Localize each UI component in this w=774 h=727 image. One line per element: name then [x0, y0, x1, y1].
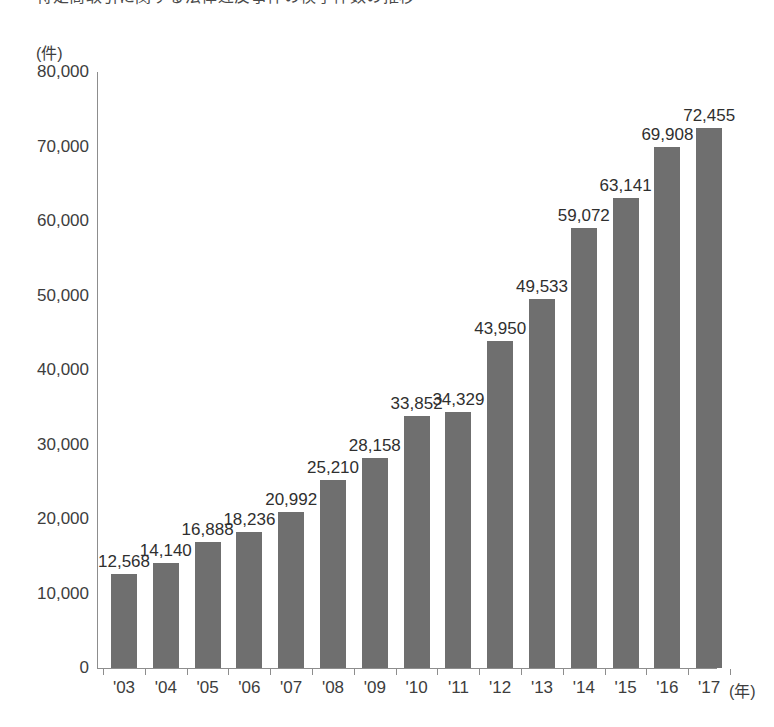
y-axis-unit-label: (件) [36, 40, 63, 64]
x-axis-tick-label: '11 [438, 678, 478, 698]
y-axis-tick-label: 70,000 [5, 137, 89, 157]
x-axis-tick-label: '17 [689, 678, 729, 698]
bar-value-label: 63,141 [586, 176, 666, 196]
x-axis-tick-label: '15 [606, 678, 646, 698]
x-axis-tick [145, 669, 146, 675]
x-axis-tick [479, 669, 480, 675]
x-axis-tick [563, 669, 564, 675]
x-axis-tick-label: '08 [313, 678, 353, 698]
x-axis-tick-label: '06 [229, 678, 269, 698]
x-axis-tick [187, 669, 188, 675]
y-axis-tick-label: 80,000 [5, 62, 89, 82]
x-axis-tick-label: '07 [271, 678, 311, 698]
x-axis-tick-label: '04 [146, 678, 186, 698]
bar-value-label: 28,158 [335, 436, 415, 456]
bar [278, 512, 304, 668]
bar-value-label: 72,455 [669, 106, 749, 126]
bar-value-label: 34,329 [418, 390, 498, 410]
x-axis-tick-label: '12 [480, 678, 520, 698]
y-axis-tick-label: 50,000 [5, 286, 89, 306]
bar-value-label: 14,140 [126, 541, 206, 561]
x-axis-tick-label: '05 [188, 678, 228, 698]
y-axis-tick-label: 40,000 [5, 360, 89, 380]
bar-value-label: 18,236 [209, 510, 289, 530]
y-axis-line [97, 72, 98, 669]
y-axis-tick-label: 10,000 [5, 584, 89, 604]
x-axis-tick-label: '14 [564, 678, 604, 698]
x-axis-tick [646, 669, 647, 675]
x-axis-tick [437, 669, 438, 675]
y-axis-tick-label: 20,000 [5, 509, 89, 529]
bar-value-label: 69,908 [627, 125, 707, 145]
x-axis-tick [688, 669, 689, 675]
x-axis-tick [396, 669, 397, 675]
x-axis-tick [270, 669, 271, 675]
x-axis-tick-label: '03 [104, 678, 144, 698]
bar [696, 128, 722, 668]
bar-value-label: 59,072 [544, 206, 624, 226]
bar-value-label: 49,533 [502, 277, 582, 297]
bar [195, 542, 221, 668]
bar-value-label: 43,950 [460, 319, 540, 339]
x-axis-tick [521, 669, 522, 675]
x-axis-tick [605, 669, 606, 675]
bar-value-label: 20,992 [251, 490, 331, 510]
bar [529, 299, 555, 668]
bar-chart: (件) 010,00020,00030,00040,00050,00060,00… [0, 0, 774, 727]
x-axis-tick [312, 669, 313, 675]
x-axis-line [97, 668, 717, 669]
bar [111, 574, 137, 668]
x-axis-tick [354, 669, 355, 675]
bar-value-label: 25,210 [293, 458, 373, 478]
bar [613, 198, 639, 668]
x-axis-tick-label: '09 [355, 678, 395, 698]
y-axis-tick-label: 60,000 [5, 211, 89, 231]
x-axis-tick [730, 669, 731, 675]
x-axis-tick-label: '10 [397, 678, 437, 698]
x-axis-unit-label: (年) [729, 678, 756, 702]
bar [445, 412, 471, 668]
x-axis-tick-label: '13 [522, 678, 562, 698]
y-axis-tick-label: 0 [5, 658, 89, 678]
bar [153, 563, 179, 668]
x-axis-tick [228, 669, 229, 675]
bar [236, 532, 262, 668]
x-axis-tick-label: '16 [647, 678, 687, 698]
bar [654, 147, 680, 668]
x-axis-tick [103, 669, 104, 675]
bar [362, 458, 388, 668]
y-axis-tick-label: 30,000 [5, 435, 89, 455]
